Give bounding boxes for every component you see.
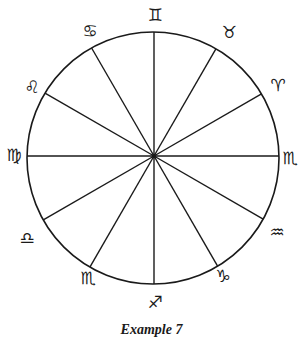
taurus-icon: ♉ — [221, 24, 236, 41]
scorpio-right-icon: ♏ — [282, 150, 297, 167]
figure-caption: Example 7 — [0, 322, 303, 338]
virgo-icon: ♍ — [6, 147, 21, 164]
house-spoke — [154, 49, 216, 156]
zodiac-wheel — [0, 0, 303, 340]
capricorn-icon: ♑ — [215, 268, 230, 285]
libra-icon: ♎ — [19, 230, 34, 247]
sagittarius-icon: ♐ — [147, 294, 162, 311]
house-spoke — [90, 156, 154, 267]
gemini-icon: ♊ — [147, 7, 162, 24]
house-spoke — [154, 94, 262, 156]
leo-icon: ♌ — [24, 79, 39, 96]
cancer-icon: ♋ — [82, 23, 97, 40]
aries-icon: ♈ — [270, 77, 285, 94]
house-spokes — [27, 32, 279, 284]
house-spoke — [92, 48, 154, 156]
house-spoke — [154, 156, 263, 219]
aquarius-icon: ♒ — [269, 224, 284, 241]
house-spoke — [154, 156, 218, 266]
house-spoke — [45, 93, 154, 156]
scorpio-left-icon: ♏ — [80, 270, 95, 287]
house-spoke — [43, 156, 154, 220]
hub-dot — [152, 154, 156, 158]
